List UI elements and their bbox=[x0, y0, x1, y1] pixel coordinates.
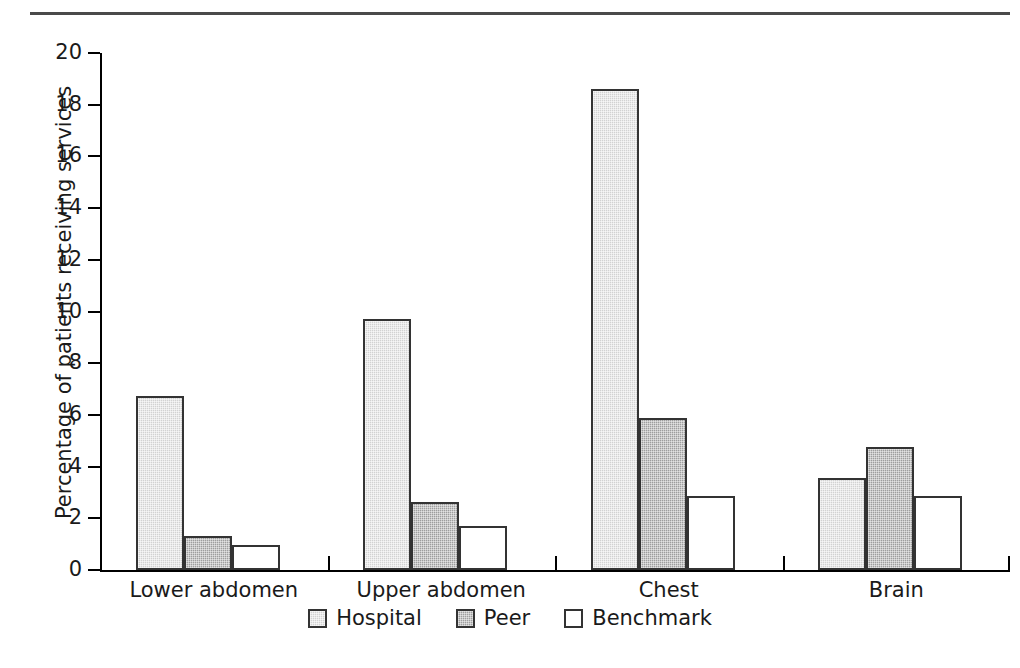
bar-hospital-lower-abdomen bbox=[136, 396, 184, 570]
legend-item-hospital[interactable]: Hospital bbox=[308, 608, 422, 629]
legend-item-label: Benchmark bbox=[592, 608, 712, 629]
legend-item-benchmark[interactable]: Benchmark bbox=[564, 608, 712, 629]
figure: 02468101214161820 Lower abdomenUpper abd… bbox=[0, 0, 1020, 668]
white-swatch bbox=[564, 609, 583, 628]
legend-item-label: Peer bbox=[484, 608, 530, 629]
legend-item-label: Hospital bbox=[336, 608, 422, 629]
bar-peer-brain bbox=[866, 447, 914, 570]
bar-benchmark-brain bbox=[914, 496, 962, 570]
x-axis-category-label: Chest bbox=[555, 578, 783, 602]
bar-chart-plot-area: 02468101214161820 Lower abdomenUpper abd… bbox=[0, 0, 1020, 668]
x-axis-category-label: Upper abdomen bbox=[328, 578, 556, 602]
legend-item-peer[interactable]: Peer bbox=[456, 608, 530, 629]
light-gray-swatch bbox=[308, 609, 327, 628]
x-axis-category-label: Brain bbox=[783, 578, 1011, 602]
bars-layer bbox=[0, 0, 1020, 570]
bar-benchmark-upper-abdomen bbox=[459, 526, 507, 570]
chart-legend: HospitalPeerBenchmark bbox=[0, 608, 1020, 629]
bar-peer-lower-abdomen bbox=[184, 536, 232, 570]
x-axis-category-label: Lower abdomen bbox=[100, 578, 328, 602]
bar-hospital-upper-abdomen bbox=[363, 319, 411, 570]
y-axis-title: Percentage of patients receiving service… bbox=[54, 43, 75, 563]
bar-hospital-brain bbox=[818, 478, 866, 570]
bar-hospital-chest bbox=[591, 89, 639, 570]
bar-peer-chest bbox=[639, 418, 687, 571]
bar-peer-upper-abdomen bbox=[411, 502, 459, 571]
bar-benchmark-chest bbox=[687, 496, 735, 570]
dark-gray-swatch bbox=[456, 609, 475, 628]
bar-benchmark-lower-abdomen bbox=[232, 545, 280, 570]
